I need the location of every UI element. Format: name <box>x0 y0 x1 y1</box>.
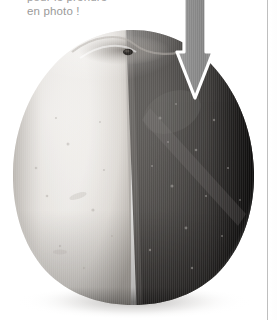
page-vertical-rule <box>267 0 268 320</box>
page-canvas: pour le prendre en photo ! <box>0 0 277 320</box>
caption-line-2: en photo ! <box>27 5 207 19</box>
caption-text: pour le prendre en photo ! <box>27 0 207 18</box>
page-margin-area <box>270 0 277 320</box>
